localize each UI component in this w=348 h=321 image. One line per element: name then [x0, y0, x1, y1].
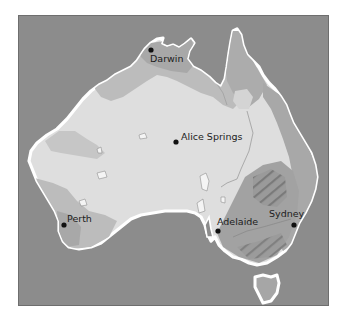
map-frame: Darwin Alice Springs Perth Adelaide Sydn…: [18, 15, 329, 306]
city-dot: [173, 139, 178, 144]
australia-map: Darwin Alice Springs Perth Adelaide Sydn…: [18, 15, 329, 306]
city-label-sydney: Sydney: [269, 208, 305, 219]
city-dot: [215, 228, 220, 233]
city-label-adelaide: Adelaide: [217, 216, 258, 227]
city-dot: [291, 222, 296, 227]
city-label-perth: Perth: [67, 213, 92, 224]
city-label-alice-springs: Alice Springs: [181, 131, 243, 142]
map-figure: Darwin Alice Springs Perth Adelaide Sydn…: [0, 0, 348, 321]
city-dot: [148, 47, 153, 52]
city-label-darwin: Darwin: [150, 53, 183, 64]
city-dot: [61, 222, 66, 227]
lake-frome: [221, 197, 225, 203]
